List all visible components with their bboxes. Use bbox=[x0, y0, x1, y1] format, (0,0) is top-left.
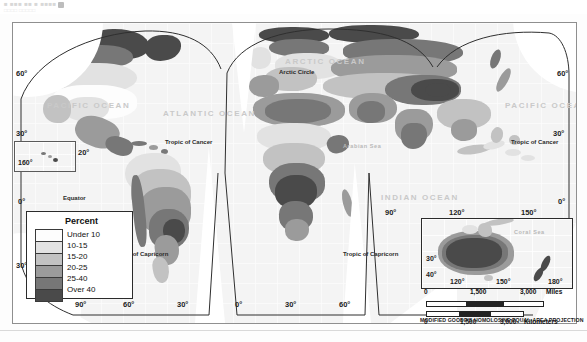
legend-swatch-under-10 bbox=[36, 230, 62, 242]
lat-label-right-60: 60° bbox=[557, 69, 568, 78]
inset-map-hawaii[interactable]: 160° bbox=[14, 141, 76, 172]
lat-label-left-60: 60° bbox=[16, 69, 27, 78]
arctic-circle-label: Arctic Circle bbox=[279, 69, 314, 75]
australia-lon-150: 150° bbox=[496, 278, 510, 285]
lat-label-right-0: 0° bbox=[558, 197, 565, 206]
atlantic-ocean-label: ATLANTIC OCEAN bbox=[163, 109, 256, 118]
indian-ocean-label: INDIAN OCEAN bbox=[381, 193, 459, 202]
truncated-toolbar-strip: ■ ■■■ ■■ ■ ■■■■ □□□□ □□□□□ bbox=[0, 0, 587, 14]
legend-swatch-25-40 bbox=[36, 278, 62, 290]
lon-label-0: 0° bbox=[235, 300, 242, 309]
lat-label-right-30: 30° bbox=[553, 129, 564, 138]
hawaii-island-3 bbox=[53, 158, 58, 162]
projection-note: MODIFIED GOODE'S HOMOLOSINE EQUAL-AREA P… bbox=[420, 317, 584, 323]
arctic-ocean-label: ARCTIC OCEAN bbox=[285, 57, 366, 66]
legend-swatch-column bbox=[35, 229, 63, 302]
tasmania bbox=[484, 275, 493, 281]
legend-label-over-40: Over 40 bbox=[67, 284, 100, 295]
hawaii-island-1 bbox=[41, 152, 46, 155]
hawaii-island-2 bbox=[48, 155, 52, 158]
miles-tick-1500: 1,500 bbox=[470, 288, 486, 295]
lon-label-90w: 90° bbox=[75, 300, 86, 309]
lon-label-120e: 120° bbox=[449, 208, 465, 217]
pacific-ocean-east-label: PACIFIC OCEAN bbox=[505, 101, 577, 110]
equator-label: Equator bbox=[63, 195, 86, 201]
toolbar-glyph-icon bbox=[58, 2, 64, 8]
coral-sea-label: Coral Sea bbox=[514, 229, 544, 235]
miles-tick-0: 0 bbox=[424, 288, 428, 295]
hawaii-lon-label: 160° bbox=[18, 159, 32, 166]
lat-label-left-30n: 30° bbox=[16, 129, 27, 138]
legend-label-20-25: 20-25 bbox=[67, 262, 100, 273]
hawaii-graticule bbox=[15, 142, 75, 171]
lon-label-150e: 150° bbox=[521, 208, 537, 217]
toolbar-ghost-text-line2: □□□□ □□□□□ bbox=[4, 7, 36, 13]
scale-bar-miles bbox=[426, 301, 544, 307]
lon-label-60e: 60° bbox=[339, 300, 350, 309]
legend-label-column: Under 10 10-15 15-20 20-25 25-40 Over 40 bbox=[67, 229, 100, 295]
australia-interior-over-40 bbox=[446, 238, 502, 268]
legend-label-25-40: 25-40 bbox=[67, 273, 100, 284]
tropic-cancer-left-label: Tropic of Cancer bbox=[165, 139, 212, 145]
australia-lon-180: 180° bbox=[548, 278, 562, 285]
lon-label-90e: 90° bbox=[385, 208, 396, 217]
lon-label-30e: 30° bbox=[285, 300, 296, 309]
australia-north-coast bbox=[462, 225, 478, 234]
legend-swatch-over-40 bbox=[36, 290, 62, 301]
legend-swatch-20-25 bbox=[36, 266, 62, 278]
lat-label-left-0: 0° bbox=[18, 197, 25, 206]
scale-miles-labels: 0 1,500 3,000 Miles bbox=[424, 288, 576, 301]
pacific-ocean-west-label: PACIFIC OCEAN bbox=[47, 101, 130, 110]
legend-label-15-20: 15-20 bbox=[67, 251, 100, 262]
legend-title: Percent bbox=[65, 216, 98, 226]
tropic-cancer-right-label: Tropic of Cancer bbox=[511, 139, 558, 145]
legend-label-10-15: 10-15 bbox=[67, 240, 100, 251]
inset-map-australia[interactable]: Coral Sea 30° 40° 120° 150° 180° bbox=[421, 218, 573, 289]
lon-label-30w: 30° bbox=[177, 300, 188, 309]
legend-swatch-10-15 bbox=[36, 242, 62, 254]
miles-tick-3000: 3,000 bbox=[520, 288, 536, 295]
legend-swatch-15-20 bbox=[36, 254, 62, 266]
map-page: ■ ■■■ ■■ ■ ■■■■ □□□□ □□□□□ bbox=[0, 0, 587, 342]
arabian-sea-label: Arabian Sea bbox=[343, 143, 377, 149]
australia-lat-40: 40° bbox=[426, 271, 437, 278]
hawaii-lat-label: 20° bbox=[78, 148, 89, 157]
australia-lat-30: 30° bbox=[426, 255, 437, 262]
australia-lon-120: 120° bbox=[450, 278, 464, 285]
tropic-capricorn-right-label: Tropic of Capricorn bbox=[343, 251, 398, 257]
scale-bars: 0 1,500 3,000 Miles 0 1,500 3,000 Kilome… bbox=[424, 288, 576, 331]
miles-unit-label: Miles bbox=[546, 288, 562, 295]
legend-label-under-10: Under 10 bbox=[67, 229, 100, 240]
lon-label-60w: 60° bbox=[123, 300, 134, 309]
map-legend[interactable]: Percent Under 10 10-15 15-20 20-25 25-40… bbox=[26, 211, 133, 299]
